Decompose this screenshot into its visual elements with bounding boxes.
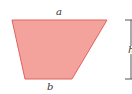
trapezoid-shape bbox=[12, 20, 107, 79]
label-bottom-base-b: b bbox=[47, 81, 53, 92]
height-bracket: h bbox=[125, 20, 132, 79]
label-height-h: h bbox=[128, 44, 132, 55]
trapezoid-diagram: a b h bbox=[0, 0, 132, 94]
label-top-base-a: a bbox=[56, 6, 62, 17]
